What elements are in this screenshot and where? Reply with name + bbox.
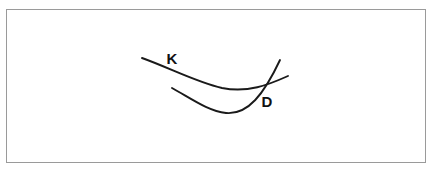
curve-canvas: K D (0, 0, 435, 171)
curve-label-d: D (262, 93, 273, 110)
curve-label-k: K (167, 50, 178, 67)
figure-root: K D (0, 0, 435, 171)
